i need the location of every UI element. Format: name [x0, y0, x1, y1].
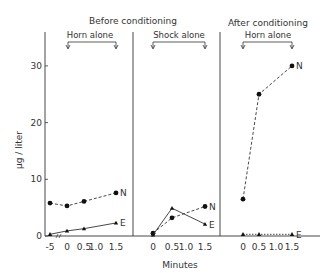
- x-axis-label: Minutes: [162, 260, 198, 270]
- panel-1: Horn alone-500.51.01.5NE: [46, 30, 127, 252]
- series-line-N: [153, 207, 205, 234]
- marker-circle: [241, 197, 246, 202]
- x-tick-label: 1.5: [109, 242, 123, 252]
- y-tick-label: 20: [31, 118, 43, 128]
- marker-triangle: [114, 221, 118, 225]
- y-tick-label: 30: [31, 61, 43, 71]
- marker-circle: [82, 199, 87, 204]
- marker-triangle: [170, 206, 174, 210]
- x-tick-label: 0.5: [252, 242, 266, 252]
- x-tick-label: 0: [150, 242, 156, 252]
- series-label: E: [296, 230, 302, 240]
- x-tick-label: 0: [240, 242, 246, 252]
- marker-circle: [170, 215, 175, 220]
- x-tick-label: 1.0: [179, 242, 194, 252]
- condition-label: Horn alone: [67, 30, 113, 40]
- x-tick-label: 1.0: [269, 242, 284, 252]
- series-label: E: [120, 218, 126, 228]
- marker-circle: [65, 204, 70, 209]
- condition-label: Shock alone: [153, 30, 205, 40]
- x-tick-label: 1.5: [198, 242, 212, 252]
- panel-3: Horn alone00.51.01.5NE: [240, 30, 303, 252]
- chart: Before conditioningAfter conditioning 01…: [0, 0, 335, 273]
- panel-2: Shock alone00.51.01.5NE: [150, 30, 216, 252]
- marker-circle: [203, 204, 208, 209]
- x-tick-label: -5: [46, 242, 55, 252]
- marker-circle: [48, 201, 53, 206]
- marker-triangle: [241, 232, 245, 236]
- marker-circle: [114, 191, 119, 196]
- condition-label: Horn alone: [245, 30, 291, 40]
- series-line-E: [153, 208, 205, 235]
- y-tick-label: 0: [36, 231, 42, 241]
- marker-triangle: [290, 232, 294, 236]
- x-tick-label: 0.5: [165, 242, 179, 252]
- x-tick-label: 0: [64, 242, 70, 252]
- series-label: E: [209, 220, 215, 230]
- series-label: N: [296, 61, 303, 71]
- series-label: N: [120, 188, 127, 198]
- marker-triangle: [257, 232, 261, 236]
- marker-circle: [290, 64, 295, 69]
- x-tick-label: 1.0: [89, 242, 104, 252]
- marker-circle: [257, 92, 262, 97]
- y-tick-label: 10: [31, 174, 43, 184]
- header-before: Before conditioning: [89, 16, 177, 26]
- y-axis-label: µg / liter: [14, 131, 24, 169]
- series-line-N: [243, 66, 292, 199]
- x-tick-label: 1.5: [285, 242, 299, 252]
- series-label: N: [209, 202, 216, 212]
- header-after: After conditioning: [228, 18, 308, 28]
